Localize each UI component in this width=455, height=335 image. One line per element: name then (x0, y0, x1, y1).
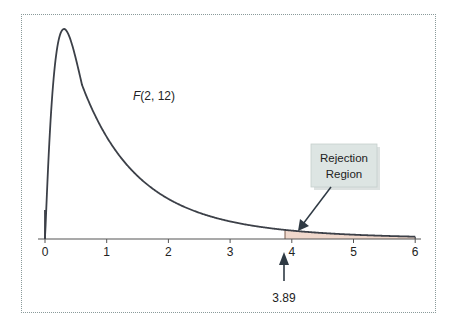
callout-arrow-icon (298, 187, 331, 231)
x-tick-label: 2 (165, 245, 172, 259)
x-tick-label: 6 (412, 245, 419, 259)
f-density-curve (45, 29, 415, 239)
distribution-label: F(2, 12) (133, 89, 175, 103)
x-tick-label: 1 (103, 245, 110, 259)
x-tick-label: 0 (42, 245, 49, 259)
callout-line2: Region (326, 168, 362, 180)
x-tick-label: 3 (227, 245, 234, 259)
x-tick-label: 5 (350, 245, 357, 259)
callout-line1: Rejection (320, 152, 368, 164)
x-axis-ticks: 0123456 (42, 239, 419, 259)
f-distribution-chart: 0123456 F(2, 12) Rejection Region 3.89 (0, 0, 455, 335)
critical-value-label: 3.89 (272, 291, 296, 305)
x-tick-label: 4 (288, 245, 295, 259)
rejection-region-callout: Rejection Region (311, 144, 380, 190)
